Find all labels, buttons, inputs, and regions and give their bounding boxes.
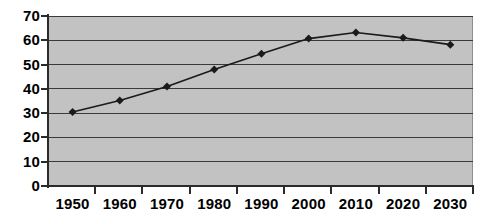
chart-screenshot: 010203040506070 195019601970198019902000… [0,0,499,223]
data-series-line [0,0,499,223]
data-point-2000 [305,35,313,43]
series-polyline [73,33,451,112]
data-point-1980 [210,65,218,73]
data-point-2010 [352,29,360,37]
data-point-2030 [446,41,454,49]
data-point-1990 [257,50,265,58]
data-point-2020 [399,34,407,42]
data-point-1970 [163,82,171,90]
data-point-1960 [116,97,124,105]
data-point-1950 [69,108,77,116]
